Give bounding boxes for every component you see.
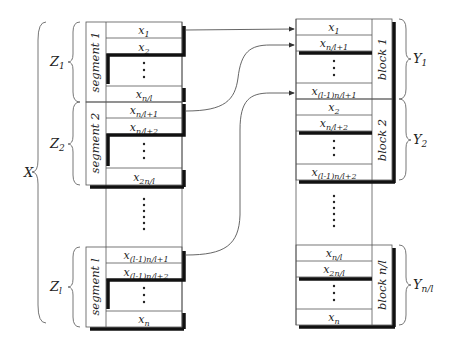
cell-xn: xn [328, 311, 339, 326]
right-column: block 1 x1 xn/l+1 x(l-1)n/l+1 block 2 x2… [296, 19, 395, 327]
cell-x2n-l: x2n/l [323, 263, 345, 278]
cell-x(l-1)n-l+1: x(l-1)n/l+1 [311, 85, 356, 100]
cell-xn-l: xn/l [136, 88, 153, 103]
left-column: segment 1 x1 x2 xn/l segment 2 xn/l+1 xn… [86, 22, 184, 329]
vertical-ellipsis-icon [333, 140, 335, 156]
segment-to-block-diagram: segment 1 x1 x2 xn/l segment 2 xn/l+1 xn… [0, 0, 453, 348]
block-label: block n/l [375, 260, 389, 310]
label-y1: Y1 [413, 51, 427, 68]
vertical-ellipsis-icon [143, 287, 145, 303]
block-1: block 1 x1 xn/l+1 x(l-1)n/l+1 [296, 19, 392, 100]
brace-y1 [399, 19, 411, 99]
block-2: block 2 x2 xn/l+2 x(l-1)n/l+2 [296, 99, 395, 182]
label-z2: Z2 [49, 136, 65, 153]
mapping-arrows [186, 29, 294, 255]
segment-label: segment l [88, 258, 102, 315]
vertical-ellipsis-icon [143, 62, 145, 78]
gap-ellipsis-icon [333, 195, 335, 227]
cell-x1: x1 [138, 24, 149, 39]
cell-x(l-1)n-l+2: x(l-1)n/l+2 [311, 166, 356, 181]
label-yn-l: Yn/l [413, 277, 433, 294]
gap-ellipsis-icon [143, 198, 145, 230]
arrow-x(l-1)n-l+1 [186, 93, 294, 255]
brace-yn-l [399, 245, 411, 325]
brace-z1 [68, 22, 80, 102]
cell-x2: x2 [138, 41, 149, 56]
brace-x [32, 22, 46, 323]
label-x: X [23, 165, 34, 180]
block-label: block 2 [375, 119, 389, 161]
arrow-xn-l+1 [186, 45, 294, 111]
brace-z2 [68, 102, 80, 185]
vertical-ellipsis-icon [333, 60, 335, 76]
brace-y2 [399, 99, 411, 180]
cell-xn-l+2: xn/l+2 [130, 121, 158, 136]
segment-1: segment 1 x1 x2 xn/l [86, 22, 184, 103]
brace-zl [68, 247, 80, 327]
cell-x2: x2 [328, 101, 339, 116]
label-z1: Z1 [49, 54, 65, 71]
cell-x(l-1)n-l+2: x(l-1)n/l+2 [123, 266, 168, 281]
cell-x(l-1)n-l+1: x(l-1)n/l+1 [123, 249, 168, 264]
block-n-l: block n/l xn/l x2n/l xn [296, 245, 395, 327]
label-y2: Y2 [413, 132, 428, 149]
cell-xn-l+2: xn/l+2 [320, 117, 348, 132]
cell-x2n-l: x2n/l [133, 171, 155, 186]
cell-xn-l+1: xn/l+1 [130, 104, 158, 119]
vertical-ellipsis-icon [143, 143, 145, 159]
arrow-x1 [186, 29, 294, 30]
segment-label: segment 2 [88, 113, 102, 174]
right-braces: Y1 Y2 Yn/l [399, 19, 433, 325]
left-braces: X Z1 Z2 Zl [23, 22, 80, 327]
segment-2: segment 2 xn/l+1 xn/l+2 x2n/l [86, 102, 184, 187]
cell-xn-l+1: xn/l+1 [320, 37, 348, 52]
block-label: block 1 [375, 38, 389, 80]
segment-l: segment l x(l-1)n/l+1 x(l-1)n/l+2 xn [86, 247, 184, 329]
segment-label: segment 1 [88, 32, 102, 93]
vertical-ellipsis-icon [333, 285, 335, 301]
cell-xn: xn [138, 313, 149, 328]
label-zl: Zl [49, 279, 62, 296]
cell-xn-l: xn/l [326, 247, 343, 262]
cell-x1: x1 [328, 21, 339, 36]
